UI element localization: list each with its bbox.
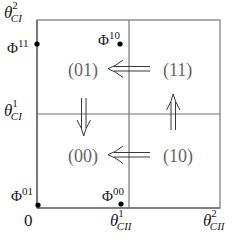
label-phi11: Φ11	[7, 38, 29, 56]
label-theta-ci-1: θ1CI	[4, 102, 22, 119]
theta-sub: CII	[210, 220, 225, 232]
label-origin: 0	[24, 212, 33, 229]
point-phi01	[35, 202, 40, 207]
theta-sup: 2	[211, 207, 217, 219]
phi-base: Φ	[102, 188, 113, 204]
point-phi11	[34, 41, 39, 46]
label-theta-cii-2: θ2CII	[203, 212, 225, 229]
phi-base: Φ	[11, 188, 22, 204]
label-theta-ci-2: θ2CI	[4, 4, 22, 21]
phi-sup: 11	[18, 37, 29, 49]
theta-sup: 1	[12, 97, 18, 109]
state-diagram	[0, 0, 245, 240]
region-label-01: (01)	[68, 61, 98, 79]
theta-sub: CI	[11, 110, 22, 122]
theta-sup: 1	[118, 207, 124, 219]
label-phi00: Φ00	[102, 186, 124, 204]
phi-base: Φ	[98, 32, 109, 48]
phi-base: Φ	[7, 40, 18, 56]
double-arrow-down-icon	[77, 98, 91, 136]
double-arrow-up-icon	[167, 94, 181, 130]
region-label-11: (11)	[163, 61, 192, 79]
phi-sup: 01	[22, 185, 33, 197]
region-label-00: (00)	[68, 147, 98, 165]
label-phi01: Φ01	[11, 186, 33, 204]
theta-sub: CII	[117, 220, 132, 232]
label-theta-cii-1: θ1CII	[110, 212, 132, 229]
region-label-10: (10)	[163, 147, 193, 165]
theta-sup: 2	[12, 0, 18, 11]
label-phi10: Φ10	[98, 30, 120, 48]
phi-sup: 00	[113, 185, 124, 197]
theta-sub: CI	[11, 12, 22, 24]
phi-sup: 10	[109, 29, 120, 41]
